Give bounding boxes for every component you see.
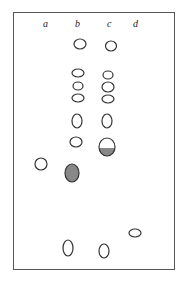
spot-b [65, 164, 79, 182]
lane-label-a: a [43, 18, 48, 29]
spot-c [102, 114, 112, 128]
spot-layer [0, 0, 179, 286]
spot-d [129, 229, 141, 237]
spot-c [102, 95, 114, 103]
spot-b [72, 114, 82, 128]
spot-c [102, 82, 114, 92]
spot-a [63, 240, 73, 256]
spot-c [99, 138, 115, 156]
spot-b [99, 244, 109, 258]
lane-label-c: c [107, 18, 111, 29]
spot-b [72, 94, 84, 102]
lane-label-d: d [133, 18, 138, 29]
spot-b [74, 39, 86, 49]
spot-c [106, 41, 117, 51]
spot-b [72, 69, 84, 77]
spot-c [103, 71, 113, 79]
lane-label-b: b [75, 18, 80, 29]
spot-a [35, 158, 47, 170]
spot-b [73, 82, 83, 90]
spot-b [70, 137, 82, 147]
